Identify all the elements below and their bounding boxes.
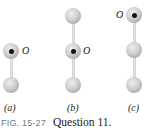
ball <box>65 77 81 93</box>
ball <box>126 42 142 58</box>
ball <box>3 77 19 93</box>
ball <box>65 8 81 24</box>
panel-label-c: (c) <box>128 103 139 113</box>
pivot-label: O <box>22 46 29 56</box>
figure-number: FIG. 15-27 <box>1 118 46 128</box>
pivot-label: O <box>83 46 90 56</box>
ball-pivot <box>126 7 142 23</box>
pivot-point-icon <box>71 49 76 54</box>
panel-label-a: (a) <box>4 103 16 113</box>
ball-pivot <box>3 43 19 59</box>
panel-label-b: (b) <box>67 103 79 113</box>
pivot-point-icon <box>9 49 14 54</box>
ball-pivot <box>65 43 81 59</box>
pivot-label: O <box>116 10 123 20</box>
figure-caption: FIG. 15-27Question 11. <box>1 116 111 129</box>
ball <box>126 77 142 93</box>
figure-caption-text: Question 11. <box>53 116 111 128</box>
pivot-point-icon <box>132 13 137 18</box>
